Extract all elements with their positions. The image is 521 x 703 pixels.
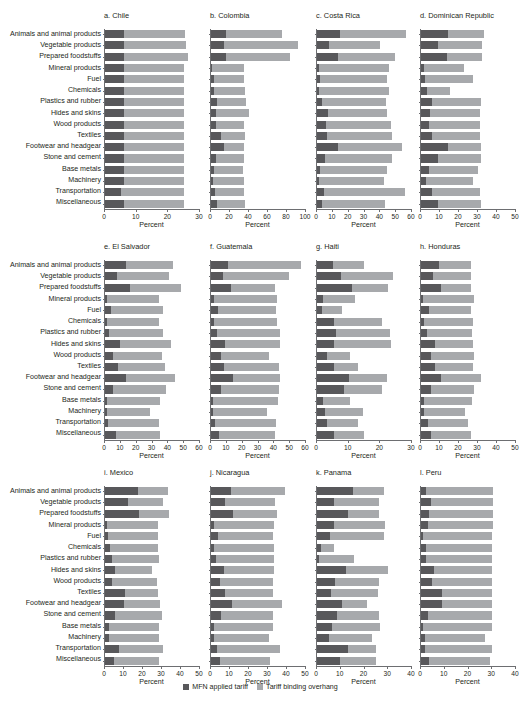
y-axis-tick bbox=[209, 548, 211, 549]
bar-segment-mfn bbox=[421, 600, 442, 608]
bar-segment-overhang bbox=[321, 544, 334, 552]
panel-title: i. Mexico bbox=[104, 467, 200, 479]
bar-segment-overhang bbox=[124, 177, 184, 185]
bar-group bbox=[421, 487, 515, 665]
bar-segment-overhang bbox=[432, 132, 480, 140]
panel-chile: a. Chile0102030Percent bbox=[104, 10, 200, 236]
bar-segment-mfn bbox=[421, 431, 431, 439]
bar-segment-overhang bbox=[330, 532, 383, 540]
bar-segment-overhang bbox=[125, 589, 158, 597]
bar-segment-overhang bbox=[326, 121, 392, 129]
bar-row bbox=[211, 600, 305, 608]
bar-segment-mfn bbox=[421, 578, 432, 586]
bar-row bbox=[421, 623, 515, 631]
bar-row bbox=[211, 578, 305, 586]
bar-segment-mfn bbox=[421, 657, 429, 665]
bar-row bbox=[105, 340, 199, 348]
bar-segment-overhang bbox=[342, 600, 367, 608]
category-label: Hides and skins bbox=[0, 567, 104, 575]
bar-segment-mfn bbox=[421, 340, 435, 348]
bar-group bbox=[421, 30, 515, 208]
x-axis-tick-label: 0 bbox=[418, 443, 422, 452]
bar-segment-overhang bbox=[346, 566, 389, 574]
y-axis-tick bbox=[315, 491, 317, 492]
y-axis-tick bbox=[103, 344, 105, 345]
bar-segment-mfn bbox=[105, 510, 139, 518]
y-axis-tick bbox=[315, 344, 317, 345]
bar-segment-overhang bbox=[327, 352, 351, 360]
bar-row bbox=[211, 419, 305, 427]
bar-segment-overhang bbox=[124, 53, 188, 61]
bar-row bbox=[421, 132, 515, 140]
y-axis-tick bbox=[315, 68, 317, 69]
bar-segment-overhang bbox=[221, 132, 245, 140]
bar-row bbox=[421, 188, 515, 196]
y-axis-tick bbox=[419, 401, 421, 402]
y-axis-tick bbox=[103, 582, 105, 583]
y-axis-tick bbox=[419, 34, 421, 35]
bar-segment-mfn bbox=[105, 645, 119, 653]
bar-row bbox=[211, 611, 305, 619]
x-axis-tick-label: 0 bbox=[314, 443, 318, 452]
category-label: Prepared foodstuffs bbox=[0, 510, 104, 518]
bar-segment-mfn bbox=[421, 166, 429, 174]
x-axis-tick-label: 0 bbox=[314, 212, 318, 221]
bar-row bbox=[421, 75, 515, 83]
bar-segment-overhang bbox=[431, 498, 494, 506]
bar-segment-overhang bbox=[327, 132, 392, 140]
bar-segment-overhang bbox=[426, 544, 493, 552]
bar-row bbox=[421, 143, 515, 151]
bar-row bbox=[421, 487, 515, 495]
bar-row bbox=[421, 408, 515, 416]
bar-segment-overhang bbox=[215, 188, 244, 196]
bar-row bbox=[317, 200, 411, 208]
y-axis-tick bbox=[315, 333, 317, 334]
bar-segment-mfn bbox=[421, 53, 447, 61]
plot-area bbox=[104, 486, 199, 666]
y-axis-tick bbox=[419, 45, 421, 46]
bar-segment-overhang bbox=[120, 340, 171, 348]
y-axis-tick bbox=[315, 627, 317, 628]
bar-segment-overhang bbox=[214, 623, 273, 631]
y-axis-tick bbox=[103, 91, 105, 92]
bar-segment-mfn bbox=[105, 121, 124, 129]
bar-segment-mfn bbox=[421, 352, 431, 360]
panel-row-1: Animals and animal productsVegetable pro… bbox=[0, 10, 521, 245]
bar-segment-overhang bbox=[217, 329, 280, 337]
bar-segment-overhang bbox=[442, 589, 492, 597]
bar-segment-overhang bbox=[231, 487, 285, 495]
bar-row bbox=[105, 154, 199, 162]
y-axis-tick bbox=[315, 661, 317, 662]
y-axis-tick bbox=[315, 158, 317, 159]
bar-segment-overhang bbox=[329, 634, 372, 642]
bar-segment-mfn bbox=[211, 30, 226, 38]
y-axis-tick bbox=[419, 570, 421, 571]
bar-segment-mfn bbox=[421, 261, 439, 269]
x-axis-title: Percent bbox=[316, 221, 411, 229]
category-label: Stone and cement bbox=[0, 385, 104, 393]
y-axis-tick bbox=[209, 604, 211, 605]
x-axis-tick-label: 50 bbox=[391, 212, 398, 221]
bar-row bbox=[421, 318, 515, 326]
category-label: Machinery bbox=[0, 634, 104, 642]
bar-segment-overhang bbox=[217, 98, 246, 106]
y-axis-tick bbox=[315, 412, 317, 413]
bar-row bbox=[317, 385, 411, 393]
y-axis-tick bbox=[315, 204, 317, 205]
bar-segment-mfn bbox=[105, 657, 114, 665]
x-axis-title: Percent bbox=[420, 452, 515, 460]
bar-segment-mfn bbox=[105, 340, 120, 348]
y-axis-tick bbox=[419, 525, 421, 526]
bar-row bbox=[317, 329, 411, 337]
bar-segment-mfn bbox=[317, 657, 340, 665]
bar-row bbox=[317, 87, 411, 95]
bar-segment-overhang bbox=[428, 611, 492, 619]
bar-segment-overhang bbox=[231, 284, 275, 292]
plot-area bbox=[420, 486, 515, 666]
category-label: Base metals bbox=[0, 397, 104, 405]
y-axis-tick bbox=[103, 604, 105, 605]
bar-segment-mfn bbox=[421, 41, 438, 49]
bar-segment-overhang bbox=[325, 408, 363, 416]
y-axis-tick bbox=[419, 412, 421, 413]
bar-segment-overhang bbox=[232, 600, 282, 608]
